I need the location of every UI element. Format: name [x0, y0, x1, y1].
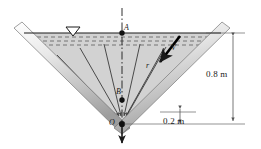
radius-label: r [146, 62, 149, 70]
figure-container: A B O V r 0.8 m 0.2 m [0, 0, 261, 149]
point-o-label: O [109, 119, 115, 127]
point-b-label: B [116, 88, 121, 96]
point-b-marker [119, 97, 124, 102]
velocity-label: V [171, 44, 176, 52]
depth-dimension-label: 0.8 m [206, 70, 228, 79]
offset-dimension-label: 0.2 m [163, 117, 185, 126]
point-a-label: A [124, 24, 129, 32]
